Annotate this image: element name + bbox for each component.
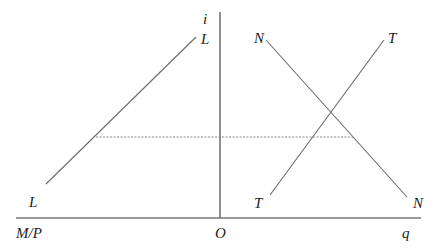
diagram-canvas: i L N T L T N M/P O q xyxy=(0,0,446,250)
curve-L-top-label: L xyxy=(200,31,209,47)
axis-label-i: i xyxy=(203,11,207,27)
curve-N-bottom-label: N xyxy=(412,195,424,211)
curve-L xyxy=(46,37,196,184)
curve-T-bottom-label: T xyxy=(254,195,264,211)
curve-L-bottom-label: L xyxy=(28,194,37,210)
axis-label-origin: O xyxy=(215,225,226,241)
axis-label-q: q xyxy=(402,225,410,241)
curve-N xyxy=(266,40,407,197)
axis-label-mp: M/P xyxy=(15,225,42,241)
curve-T-top-label: T xyxy=(388,30,398,46)
curve-N-top-label: N xyxy=(253,30,265,46)
